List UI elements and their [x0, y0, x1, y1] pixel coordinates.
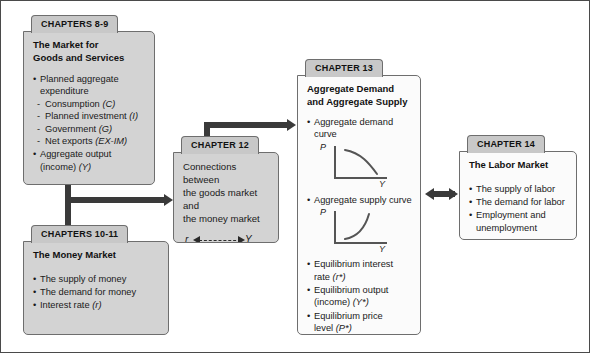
list-item-text: The supply of money — [40, 274, 126, 284]
sub-item-text: Planned investment — [45, 111, 129, 121]
arrowhead-to-chapter-14 — [449, 188, 458, 200]
list-chapter-14: The supply of labor The demand for labor… — [469, 183, 568, 235]
list-item-continuation: unemployment — [469, 222, 568, 234]
card-body-chapter-13: Aggregate Demand and Aggregate Supply Ag… — [297, 75, 421, 335]
chapter-12-description: Connections between the goods market and… — [183, 160, 270, 225]
sub-item-symbol: (EX-IM) — [95, 136, 127, 146]
relation-arrowhead-right — [238, 236, 245, 243]
graph-x-axis-label: Y — [379, 244, 385, 254]
list-chapters-8-9: Planned aggregate expenditure Consumptio… — [33, 73, 146, 173]
card-body-chapter-12: Connections between the goods market and… — [173, 152, 279, 243]
list-item: Employment and — [469, 209, 568, 221]
tab-chapters-8-9: CHAPTERS 8-9 — [31, 15, 118, 33]
sub-item-text: Consumption — [45, 99, 102, 109]
list-item-aggregate-demand: Aggregate demand curve — [307, 116, 412, 141]
continuation-symbol: (Y) — [79, 162, 91, 172]
graph-y-axis-label: P — [320, 207, 326, 217]
list-item-continuation: rate (r*) — [307, 271, 412, 283]
tab-chapter-14: CHAPTER 14 — [467, 135, 545, 153]
diagram-canvas: CHAPTERS 8-9 The Market for Goods and Se… — [0, 0, 590, 353]
tab-chapters-10-11: CHAPTERS 10-11 — [31, 225, 128, 243]
sub-item: Net exports (EX-IM) — [33, 135, 146, 147]
arrowhead-to-chapter-12 — [164, 194, 173, 206]
sub-item: Government (G) — [33, 123, 146, 135]
card-body-chapters-8-9: The Market for Goods and Services Planne… — [23, 31, 155, 185]
list-item-text: The demand for money — [40, 287, 136, 297]
relation-dashed-line — [199, 240, 241, 241]
list-item: Equilibrium price — [307, 310, 412, 322]
continuation-text: level — [314, 323, 336, 333]
list-item-text: Interest rate — [40, 300, 92, 310]
list-item: Interest rate (r) — [33, 299, 160, 311]
list-item: Equilibrium interest — [307, 258, 412, 270]
list-item-continuation: (income) (Y) — [33, 161, 146, 173]
continuation-symbol: (P*) — [336, 323, 352, 333]
heading-line-2: and Aggregate Supply — [307, 96, 407, 107]
list-item-symbol: (r) — [92, 300, 101, 310]
heading-ad-as: Aggregate Demand and Aggregate Supply — [307, 83, 412, 108]
list-chapter-13-equilibria: Equilibrium interest rate (r*) Equilibri… — [307, 258, 412, 334]
sub-item-text: Government — [45, 124, 99, 134]
heading-labor-market: The Labor Market — [469, 159, 568, 172]
card-body-chapter-14: The Labor Market The supply of labor The… — [459, 151, 577, 240]
card-chapters-10-11: CHAPTERS 10-11 The Money Market The supp… — [23, 225, 169, 335]
relation-symbol-r: r — [185, 234, 188, 243]
sub-item-text: Net exports — [45, 136, 95, 146]
description-line-2: the goods market and — [183, 187, 257, 211]
sub-item-symbol: (I) — [129, 111, 138, 121]
list-chapters-10-11: The supply of money The demand for money… — [33, 273, 160, 312]
connector-spine-vertical — [65, 185, 71, 227]
arrowhead-to-chapter-13 — [287, 119, 296, 131]
list-item: The supply of money — [33, 273, 160, 285]
card-body-chapters-10-11: The Money Market The supply of money The… — [23, 241, 169, 335]
graph-aggregate-demand: P Y — [319, 143, 391, 187]
sub-item: Consumption (C) — [33, 98, 146, 110]
description-line-3: the money market — [183, 213, 260, 224]
heading-money-market: The Money Market — [33, 249, 160, 262]
tab-chapter-12: CHAPTER 12 — [181, 136, 259, 154]
relation-r-y: r Y — [183, 234, 270, 243]
graph-aggregate-supply: P Y — [319, 208, 391, 252]
list-item: Planned aggregate — [33, 73, 146, 85]
relation-symbol-y: Y — [245, 234, 252, 243]
heading-line-1: Aggregate Demand — [307, 83, 394, 94]
heading-line-2: Goods and Services — [33, 52, 124, 63]
continuation-symbol: (Y*) — [353, 297, 369, 307]
tab-chapter-13: CHAPTER 13 — [305, 59, 383, 77]
list-item: The supply of labor — [469, 183, 568, 195]
connector-arm-to-chapter-12 — [65, 197, 165, 203]
list-item: The demand for labor — [469, 196, 568, 208]
list-item-aggregate-supply: Aggregate supply curve — [307, 194, 412, 206]
sub-item: Planned investment (I) — [33, 110, 146, 122]
graph-x-axis-label: Y — [379, 179, 385, 189]
list-item-continuation: expenditure — [33, 85, 146, 97]
arrowhead-to-chapter-13 — [425, 188, 434, 200]
continuation-text: rate — [314, 272, 333, 282]
heading-chapters-8-9: The Market for Goods and Services — [33, 39, 146, 64]
heading-line-1: The Market for — [33, 39, 98, 50]
description-line-1: Connections between — [183, 161, 236, 185]
list-item-continuation: (income) (Y*) — [307, 296, 412, 308]
card-chapters-8-9: CHAPTERS 8-9 The Market for Goods and Se… — [23, 15, 155, 185]
graph-y-axis-label: P — [320, 142, 326, 152]
card-chapter-13: CHAPTER 13 Aggregate Demand and Aggregat… — [297, 59, 421, 335]
sub-item-symbol: (G) — [99, 124, 112, 134]
card-chapter-14: CHAPTER 14 The Labor Market The supply o… — [459, 135, 577, 240]
list-item-continuation: level (P*) — [307, 322, 412, 334]
list-item: The demand for money — [33, 286, 160, 298]
connector-chapter-12-right — [204, 122, 288, 128]
list-item: Aggregate output — [33, 148, 146, 160]
continuation-text: (income) — [314, 297, 353, 307]
list-item: Equilibrium output — [307, 284, 412, 296]
continuation-text: (income) — [40, 162, 79, 172]
continuation-symbol: (r*) — [333, 272, 346, 282]
card-chapter-12: CHAPTER 12 Connections between the goods… — [173, 136, 279, 243]
sub-item-symbol: (C) — [102, 99, 115, 109]
